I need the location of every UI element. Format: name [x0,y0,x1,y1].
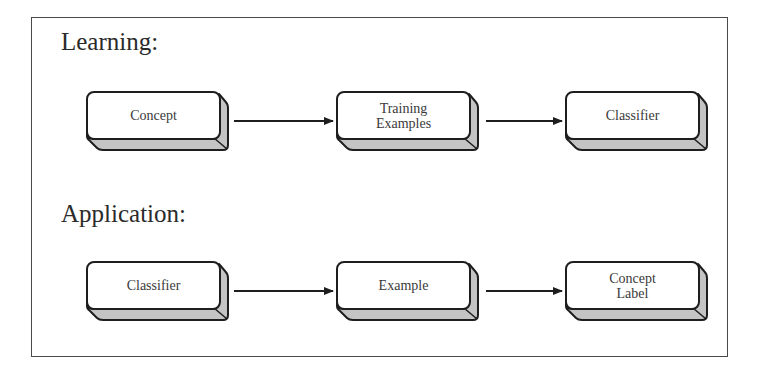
concept-node-label: Concept [87,92,220,139]
node-text-line2: Examples [376,116,431,131]
node-text-line2: Label [617,286,649,301]
flow-diagram [0,0,758,379]
node-text-line1: Training [380,101,428,116]
node-text: Classifier [127,278,181,293]
classifier-node-label: Classifier [566,92,699,139]
node-text-line1: Concept [609,271,656,286]
classifier-input-node-label: Classifier [87,262,220,309]
node-text: Classifier [606,108,660,123]
concept-label-node-label: Concept Label [566,262,699,309]
training-examples-node-label: Training Examples [337,92,470,139]
example-node-label: Example [337,262,470,309]
node-text: Example [379,278,429,293]
node-text: Concept [130,108,177,123]
